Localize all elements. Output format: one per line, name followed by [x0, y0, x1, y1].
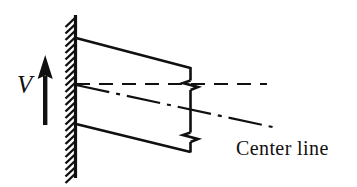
- break-symbol-upper: [183, 81, 198, 91]
- velocity-arrow: [38, 55, 53, 125]
- wall-hatching: [66, 18, 76, 183]
- break-symbol-lower: [183, 133, 198, 143]
- figure-canvas: V Center line: [0, 0, 357, 187]
- center-line-label: Center line: [236, 138, 329, 158]
- beam-top-edge: [76, 38, 191, 68]
- velocity-arrow-head: [38, 55, 53, 79]
- velocity-label: V: [17, 72, 32, 97]
- fixed-support-wall: [66, 15, 76, 183]
- tapered-beam-outline: [76, 38, 191, 153]
- velocity-arrow-shaft: [43, 76, 47, 125]
- beam-bottom-edge: [76, 124, 191, 152]
- center-line: [76, 85, 277, 128]
